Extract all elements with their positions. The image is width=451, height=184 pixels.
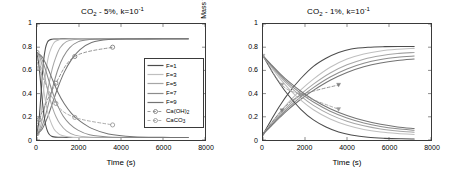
legend-item-label: CaCO3 — [166, 116, 185, 126]
circle-marker-icon — [147, 116, 164, 125]
y-axis-label-right: Mass fraction — [200, 0, 207, 38]
legend-item-f3[interactable]: F=3 — [147, 70, 200, 79]
line-swatch-icon — [147, 79, 164, 88]
plot-curves-right — [263, 24, 431, 140]
line-swatch-icon — [147, 70, 164, 79]
legend-item-f1[interactable]: F=1 — [147, 61, 200, 70]
x-tick-label: 2000 — [288, 144, 322, 151]
y-tick-label: 1 — [4, 19, 32, 26]
title-sup: -1 — [364, 6, 370, 12]
x-tick-label: 4000 — [104, 144, 138, 151]
y-tick-label: 0.8 — [4, 43, 32, 50]
plot-area-right — [262, 23, 432, 141]
legend-item-caco3[interactable]: CaCO3 — [147, 116, 200, 125]
title-sup: -1 — [138, 6, 144, 12]
y-tick-label: 0.2 — [230, 113, 258, 120]
legend-item-label: F=9 — [166, 98, 177, 106]
x-tick-label: 0 — [245, 144, 279, 151]
chart-title-right: CO2 - 1%, k=10-1 — [226, 6, 451, 17]
line-swatch-icon — [147, 61, 164, 70]
x-tick-label: 6000 — [373, 144, 407, 151]
y-tick-label: 0.6 — [4, 66, 32, 73]
legend-item-label: F=5 — [166, 80, 177, 88]
y-tick-label: 0.4 — [4, 90, 32, 97]
x-tick-label: 4000 — [330, 144, 364, 151]
x-axis-label-right: Time (s) — [262, 158, 432, 167]
x-tick-label: 8000 — [189, 144, 223, 151]
legend-item-f7[interactable]: F=7 — [147, 89, 200, 98]
legend-item-label: F=3 — [166, 71, 177, 79]
title-mid: - 5%, k=10 — [97, 7, 139, 16]
title-head: CO — [81, 7, 93, 16]
x-tick-label: 2000 — [62, 144, 96, 151]
x-axis-label-left: Time (s) — [36, 158, 206, 167]
x-tick-label: 6000 — [147, 144, 181, 151]
chart-panel-left: CO2 - 5%, k=10-1 Mass fraction Time (s) … — [0, 0, 225, 184]
legend-item-f5[interactable]: F=5 — [147, 79, 200, 88]
y-tick-label: 0.2 — [4, 113, 32, 120]
x-tick-label: 0 — [19, 144, 53, 151]
chart-panel-right: CO2 - 1%, k=10-1 Mass fraction Time (s) … — [226, 0, 451, 184]
line-swatch-icon — [147, 89, 164, 98]
y-tick-label: 0.4 — [230, 90, 258, 97]
legend-left[interactable]: F=1F=3F=5F=7F=9Ca(OH)2CaCO3 — [144, 58, 204, 128]
legend-item-label: F=7 — [166, 89, 177, 97]
y-tick-label: 0.8 — [230, 43, 258, 50]
line-swatch-icon — [147, 98, 164, 107]
circle-marker-icon — [147, 107, 164, 116]
x-tick-label: 8000 — [415, 144, 449, 151]
title-mid: - 1%, k=10 — [323, 7, 365, 16]
y-tick-label: 0 — [4, 137, 32, 144]
chart-title-left: CO2 - 5%, k=10-1 — [0, 6, 225, 17]
legend-item-label: F=1 — [166, 62, 177, 70]
figure-container: CO2 - 5%, k=10-1 Mass fraction Time (s) … — [0, 0, 451, 184]
y-tick-label: 0.6 — [230, 66, 258, 73]
title-head: CO — [307, 7, 319, 16]
y-tick-label: 0 — [230, 137, 258, 144]
y-tick-label: 1 — [230, 19, 258, 26]
